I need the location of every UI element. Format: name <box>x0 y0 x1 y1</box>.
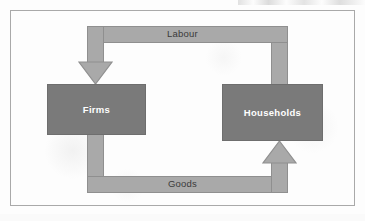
entity-box-firms: Firms <box>47 84 146 135</box>
goods-flow-label: Goods <box>0 178 365 189</box>
goods-flow-drop-left <box>87 134 104 177</box>
entity-label-households: Households <box>244 107 301 118</box>
scan-artifact-top <box>238 0 365 5</box>
arrow-up-icon <box>262 140 297 164</box>
scan-artifact-bottom <box>0 214 365 221</box>
entity-label-firms: Firms <box>83 104 110 115</box>
labour-flow-label: Labour <box>0 28 365 39</box>
entity-box-households: Households <box>222 84 323 141</box>
arrow-down-icon <box>78 61 113 85</box>
circular-flow-diagram: Labour Goods Firms Households <box>0 0 365 221</box>
